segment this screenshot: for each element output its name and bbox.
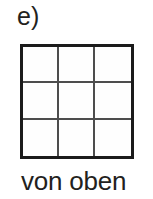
grid-cell	[95, 47, 131, 83]
figure-panel: e) von oben	[0, 0, 153, 199]
grid-cell	[23, 47, 59, 83]
three-by-three-grid	[20, 44, 134, 159]
grid-cell	[23, 83, 59, 119]
grid-cell	[59, 120, 95, 156]
grid-cell	[95, 83, 131, 119]
grid-cell	[95, 120, 131, 156]
grid-cell	[59, 83, 95, 119]
item-label: e)	[17, 1, 39, 31]
grid-cell	[59, 47, 95, 83]
view-caption: von oben	[21, 166, 126, 197]
grid-cell	[23, 120, 59, 156]
